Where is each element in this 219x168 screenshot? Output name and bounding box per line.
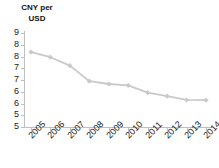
series-plot: [0, 0, 219, 168]
data-point-marker: [106, 81, 111, 86]
line-chart: CNY per USD 988776655 200520062007200820…: [0, 0, 219, 168]
data-point-marker: [48, 55, 53, 60]
data-point-marker: [165, 94, 170, 99]
data-point-marker: [184, 97, 189, 102]
data-point-marker: [145, 90, 150, 95]
data-point-marker: [126, 83, 131, 88]
series-line: [31, 52, 206, 100]
data-point-marker: [203, 98, 208, 103]
data-point-marker: [28, 49, 33, 54]
